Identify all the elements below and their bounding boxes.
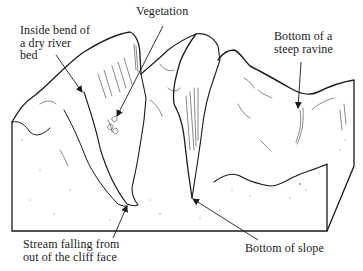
label-arrows: [56, 26, 301, 240]
label-vegetation: Vegetation: [136, 5, 188, 18]
landscape-diagram: Inside bend of a dry river bed Vegetatio…: [0, 0, 363, 271]
arrow-vegetation: [117, 26, 163, 116]
ground-speckles: [21, 139, 345, 220]
label-inside-bend: Inside bend of a dry river bed: [20, 24, 90, 62]
terrain-hatching: [40, 44, 346, 166]
arrow-stream: [113, 206, 127, 238]
arrow-slope-bottom: [193, 199, 258, 240]
label-ravine-bottom: Bottom of a steep ravine: [274, 30, 333, 55]
label-stream: Stream falling from out of the cliff fac…: [23, 238, 120, 263]
arrow-ravine-bottom: [298, 62, 301, 108]
label-slope-bottom: Bottom of slope: [245, 242, 324, 255]
